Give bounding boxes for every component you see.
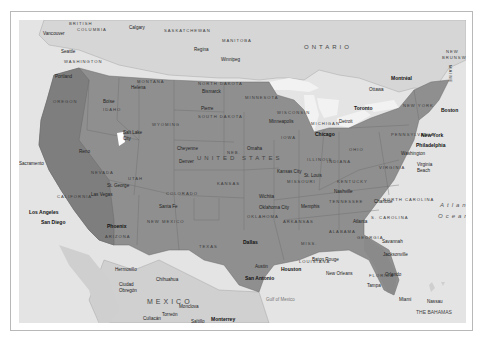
state-label-oklahoma: OKLAHOMA [247, 215, 279, 219]
city-label-virginia-beach[interactable]: Virginia [417, 163, 432, 168]
city-label-tampa[interactable]: Tampa [367, 284, 381, 289]
city-label-sacramento[interactable]: Sacramento [19, 162, 44, 167]
city-label-monterrey[interactable]: Monterrey [211, 317, 235, 322]
province-label-new-brunswick: NEW [446, 50, 459, 54]
state-label-texas: TEXAS [199, 245, 218, 249]
city-label-montreal[interactable]: Montréal [391, 76, 412, 81]
city-label-pierre[interactable]: Pierre [201, 107, 213, 112]
state-label-nevada: NEVADA [91, 171, 114, 175]
city-label-orlando[interactable]: Orlando [385, 273, 401, 278]
state-label-utah: UTAH [128, 177, 143, 181]
city-label-minneapolis[interactable]: Minneapolis [269, 120, 294, 125]
city-label-vancouver[interactable]: Vancouver [43, 32, 65, 37]
city-label-los-angeles[interactable]: Los Angeles [29, 210, 59, 215]
state-label-new-mexico: NEW MEXICO [147, 220, 184, 224]
city-label-salt-lake-city[interactable]: Salt Lake [123, 131, 142, 136]
map-canvas[interactable]: BRITISH COLUMBIA SASKATCHEWAN MANITOBA O… [19, 20, 466, 323]
city-label-seattle[interactable]: Seattle [61, 50, 75, 55]
city-label-regina[interactable]: Regina [194, 48, 209, 53]
state-label-georgia: GEORGIA [357, 236, 384, 240]
city-label-boise[interactable]: Boise [103, 100, 115, 105]
city-label-chihuahua[interactable]: Chihuahua [156, 278, 178, 283]
state-label-kansas: KANSAS [217, 182, 240, 186]
state-label-washington: WASHINGTON [64, 60, 103, 64]
city-label-torreon[interactable]: Torreón [162, 313, 178, 318]
state-label-kentucky: KENTUCKY [337, 180, 368, 184]
city-label-las-vegas[interactable]: Las Vegas [91, 193, 112, 198]
city-label-saltillo[interactable]: Saltillo [191, 320, 205, 323]
city-label-phoenix[interactable]: Phoenix [107, 224, 126, 229]
city-label-savannah[interactable]: Savannah [382, 240, 403, 245]
city-label-helena[interactable]: Helena [131, 86, 146, 91]
city-label-calgary[interactable]: Calgary [129, 26, 145, 31]
city-label-chicago[interactable]: Chicago [315, 132, 335, 137]
city-label-new-york[interactable]: New York [421, 133, 443, 138]
city-label-wichita[interactable]: Wichita [259, 195, 274, 200]
state-label-oregon: OREGON [53, 100, 78, 104]
city-label-salt-lake-city-2[interactable]: City [123, 137, 131, 142]
city-label-st-louis[interactable]: St. Louis [304, 174, 322, 179]
city-label-memphis[interactable]: Memphis [301, 205, 320, 210]
city-label-portland[interactable]: Portland [55, 75, 72, 80]
state-label-virginia: VIRGINIA [379, 166, 405, 170]
city-label-denver[interactable]: Denver [179, 160, 194, 165]
city-label-ciudad-obregon-2[interactable]: Obregón [119, 289, 137, 294]
state-label-tennessee: TENNESSEE [329, 200, 363, 204]
province-label-british-columbia-2: COLUMBIA [77, 28, 107, 32]
ocean-label-atlantic: Atlan [440, 202, 466, 208]
city-label-ottawa[interactable]: Ottawa [369, 88, 384, 93]
country-label-bahamas: THE BAHAMAS [416, 310, 452, 315]
city-label-bismarck[interactable]: Bismarck [202, 90, 221, 95]
city-label-philadelphia[interactable]: Philadelphia [416, 143, 445, 148]
city-label-culiacan[interactable]: Culiacán [143, 317, 161, 322]
state-label-minnesota: MINNESOTA [245, 96, 279, 100]
city-label-detroit[interactable]: Detroit [339, 120, 353, 125]
city-label-jacksonville[interactable]: Jacksonville [383, 253, 408, 258]
city-label-oklahoma-city[interactable]: Oklahoma City [259, 206, 289, 211]
city-label-san-diego[interactable]: San Diego [41, 220, 65, 225]
province-label-british-columbia: BRITISH [69, 22, 93, 26]
state-label-wyoming: WYOMING [152, 123, 180, 127]
state-label-maine: MAINE [448, 65, 452, 83]
ocean-label-atlantic-2: Ocean [438, 213, 466, 219]
state-label-missouri: MISSOURI [287, 180, 316, 184]
state-label-wisconsin: WISCONSIN [277, 111, 310, 115]
city-label-austin[interactable]: Austin [255, 265, 268, 270]
state-label-colorado: COLORADO [166, 192, 198, 196]
city-label-nassau[interactable]: Nassau [427, 300, 443, 305]
state-label-alabama: ALABAMA [329, 230, 356, 234]
city-label-santa-fe[interactable]: Santa Fe [159, 205, 178, 210]
city-label-san-antonio[interactable]: San Antonio [245, 276, 274, 281]
state-label-michigan: MICHIGAN [311, 122, 340, 126]
province-label-ontario: ONTARIO [304, 44, 352, 50]
city-label-miami[interactable]: Miami [399, 298, 411, 303]
city-label-ciudad-obregon[interactable]: Ciudad [119, 283, 134, 288]
city-label-dallas[interactable]: Dallas [243, 240, 258, 245]
city-label-boston[interactable]: Boston [441, 108, 458, 113]
city-label-winnipeg[interactable]: Winnipeg [221, 58, 240, 63]
state-label-california: CALIFORNIA [57, 195, 92, 199]
city-label-houston[interactable]: Houston [281, 267, 301, 272]
state-label-south-dakota: SOUTH DAKOTA [198, 115, 243, 119]
state-label-indiana: INDIANA [327, 160, 351, 164]
city-label-atlanta[interactable]: Atlanta [353, 220, 367, 225]
city-label-omaha[interactable]: Omaha [247, 147, 262, 152]
city-label-cheyenne[interactable]: Cheyenne [177, 147, 198, 152]
city-label-st-george[interactable]: St. George [107, 184, 129, 189]
city-label-washington-dc[interactable]: Washington [401, 152, 425, 157]
state-label-iowa: IOWA [281, 136, 296, 140]
state-label-south-carolina: S. CAROLINA [371, 216, 409, 220]
country-label-usa: UNITED STATES [197, 155, 282, 161]
city-label-monclova[interactable]: Monclova [179, 305, 199, 310]
city-label-kansas-city[interactable]: Kansas City [277, 170, 302, 175]
province-label-new-brunswick-2: BRUNSWICK [442, 56, 466, 60]
province-label-manitoba: MANITOBA [222, 39, 252, 43]
city-label-hermosillo[interactable]: Hermosillo [115, 268, 137, 273]
city-label-baton-rouge[interactable]: Baton Rouge [312, 258, 339, 263]
city-label-toronto[interactable]: Toronto [354, 106, 373, 111]
city-label-nashville[interactable]: Nashville [334, 190, 353, 195]
city-label-reno[interactable]: Reno [79, 150, 90, 155]
city-label-charlotte[interactable]: Charlotte [374, 200, 393, 205]
city-label-virginia-beach-2[interactable]: Beach [417, 169, 430, 174]
city-label-new-orleans[interactable]: New Orleans [326, 272, 353, 277]
